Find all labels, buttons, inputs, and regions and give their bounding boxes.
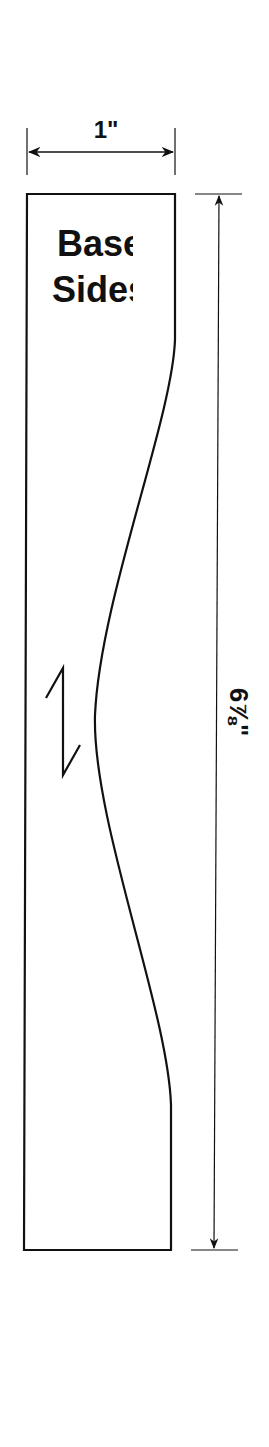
part-title-line2: Sides xyxy=(52,269,148,310)
grain-direction-icon xyxy=(46,668,80,775)
height-dimension-line xyxy=(214,196,219,1248)
pattern-diagram: 1" Base Sides 6⅞" xyxy=(0,0,269,1447)
part-title-line1: Base xyxy=(57,223,143,264)
width-label: 1" xyxy=(94,116,119,143)
height-label: 6⅞" xyxy=(224,688,254,736)
height-dimension: 6⅞" xyxy=(191,194,254,1250)
part-outline xyxy=(24,194,175,1250)
width-dimension: 1" xyxy=(27,116,175,175)
